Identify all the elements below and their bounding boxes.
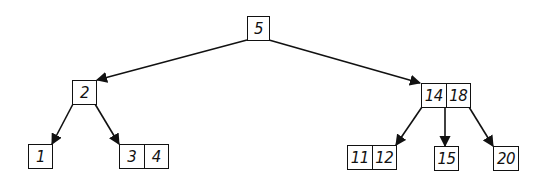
node-key: 3 bbox=[120, 145, 144, 168]
node-key: 20 bbox=[494, 147, 518, 170]
node-root: 5 bbox=[247, 16, 270, 41]
edge-left-leaf1 bbox=[52, 104, 73, 144]
leaf-20: 20 bbox=[493, 146, 519, 171]
leaf-1: 1 bbox=[28, 144, 53, 169]
edge-root-right bbox=[269, 40, 420, 83]
edge-root-left bbox=[97, 40, 247, 80]
node-key: 4 bbox=[144, 145, 169, 168]
node-left: 2 bbox=[72, 80, 97, 105]
node-key: 11 bbox=[348, 146, 372, 169]
node-key: 1 bbox=[29, 145, 52, 168]
leaf-11-12: 11 12 bbox=[347, 145, 397, 170]
node-key: 2 bbox=[73, 81, 96, 104]
node-key: 12 bbox=[372, 146, 397, 169]
edge-right-leaf20 bbox=[469, 107, 493, 146]
edge-left-leaf34 bbox=[95, 104, 119, 144]
node-key: 5 bbox=[248, 17, 269, 40]
node-key: 18 bbox=[446, 84, 471, 107]
leaf-3-4: 3 4 bbox=[119, 144, 169, 169]
edge-right-leaf1112 bbox=[396, 107, 422, 145]
node-right: 14 18 bbox=[421, 83, 471, 108]
node-key: 15 bbox=[435, 147, 458, 170]
node-key: 14 bbox=[422, 84, 446, 107]
leaf-15: 15 bbox=[434, 146, 459, 171]
